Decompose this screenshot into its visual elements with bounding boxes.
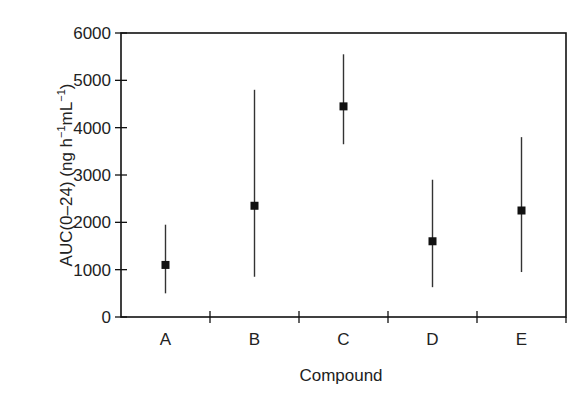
y-tick-label: 2000 [73, 213, 111, 232]
square-marker [340, 102, 348, 110]
y-axis-title-end: ) [57, 84, 76, 90]
x-tick-label: C [337, 330, 349, 349]
y-tick-label: 4000 [73, 119, 111, 138]
data-point-group [518, 137, 526, 272]
y-tick-label: 5000 [73, 71, 111, 90]
y-tick-label: 6000 [73, 24, 111, 43]
x-tick-label: D [426, 330, 438, 349]
y-axis-title-sup2: −1 [55, 89, 67, 102]
y-axis-title-main: AUC(0–24) (ng h [57, 138, 76, 267]
square-marker [251, 202, 259, 210]
x-tick-label: E [516, 330, 527, 349]
chart: 0100020003000400050006000 ABCDE Compound… [0, 0, 583, 398]
data-points [162, 54, 526, 293]
y-axis-title: AUC(0–24) (ng h−1mL−1) [55, 84, 76, 267]
x-axis-title: Compound [299, 366, 382, 385]
square-marker [518, 207, 526, 215]
data-point-group [162, 225, 170, 294]
data-point-group [251, 90, 259, 277]
y-tick-label: 0 [102, 308, 111, 327]
y-axis-title-sup1: −1 [55, 125, 67, 138]
x-tick-label: B [249, 330, 260, 349]
y-axis: 0100020003000400050006000 [73, 24, 127, 327]
data-point-group [429, 180, 437, 287]
y-tick-label: 3000 [73, 166, 111, 185]
data-point-group [340, 54, 348, 144]
x-tick-label: A [160, 330, 172, 349]
square-marker [162, 261, 170, 269]
square-marker [429, 237, 437, 245]
y-tick-label: 1000 [73, 261, 111, 280]
y-axis-title-mid: mL [57, 102, 76, 126]
